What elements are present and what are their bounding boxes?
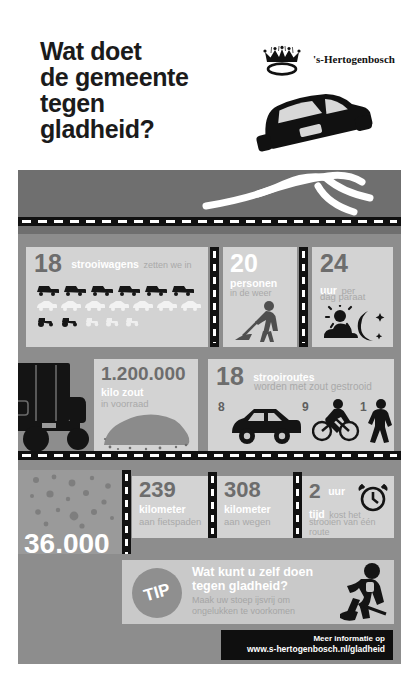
stat-strooiwagens: 18 strooiwagens zetten we in xyxy=(26,247,208,347)
strooiroutes-sub: worden met zout gestrooid xyxy=(254,381,372,392)
crown-icon xyxy=(254,44,310,78)
car-icon xyxy=(230,403,302,445)
fleet-icon-grid xyxy=(36,283,204,330)
divider-dashes-2 xyxy=(299,247,308,347)
city-logo: 's-Hertogenbosch xyxy=(254,44,394,80)
person-shoveling-icon xyxy=(334,562,392,622)
pedestrian-icon xyxy=(368,399,394,443)
truck-icon xyxy=(63,283,87,296)
tijd-route-label: uur xyxy=(328,485,345,497)
strooiwagens-label: strooiwagens xyxy=(71,258,139,270)
wegen-sub: aan wegen xyxy=(224,517,270,527)
tilted-car-icon xyxy=(246,80,374,166)
uur-paraat-sub: dag paraat xyxy=(320,292,365,302)
car-icon xyxy=(180,299,201,311)
tip-sub-line-2: ongelukken te voorkomen xyxy=(192,606,342,617)
stats-band-fleet: 18 strooiwagens zetten we in xyxy=(18,243,401,351)
road-dashes-mid xyxy=(18,451,401,460)
uur-paraat-number: 24 xyxy=(320,251,348,276)
personen-number: 20 xyxy=(230,251,258,276)
fleet-row-trucks xyxy=(36,283,204,296)
fleet-row-tractors xyxy=(36,314,204,327)
tip-panel: TIP Wat kunt u zelf doen tegen gladheid?… xyxy=(122,560,394,624)
fleet-row-cars xyxy=(36,299,204,311)
stat-wegen: 308 kilometer aan wegen xyxy=(217,476,293,538)
tip-badge-label: TIP xyxy=(126,562,188,624)
stats-band-kilometers: 36.000 kilo zout wordt er gemiddeld gest… xyxy=(18,470,401,566)
page-title: Wat doet de gemeente tegen gladheid? xyxy=(40,38,250,142)
poster-sheet: Wat doet de gemeente tegen gladheid? xyxy=(18,18,401,664)
tip-badge: TIP xyxy=(132,568,182,618)
truck-icon xyxy=(36,283,60,296)
tractor-icon xyxy=(60,314,81,327)
tractor-icon xyxy=(104,314,121,327)
poster-header: Wat doet de gemeente tegen gladheid? xyxy=(18,18,401,170)
divider-dashes-1 xyxy=(210,247,219,347)
truck-icon xyxy=(144,283,168,296)
routes-bike-count: 9 xyxy=(302,401,309,413)
sun-cloud-moon-icon xyxy=(320,305,386,345)
stat-strooiroutes: 18 strooiroutes worden met zout gestrooi… xyxy=(208,359,394,451)
routes-pedestrian-count: 1 xyxy=(360,401,367,413)
title-line-4: gladheid? xyxy=(40,116,250,142)
wegen-number: 308 xyxy=(224,479,261,501)
bicycle-icon xyxy=(312,399,360,443)
car-icon xyxy=(108,299,129,311)
tractor-icon xyxy=(84,314,101,327)
tijd-route-sub: strooien van één route xyxy=(309,518,394,538)
tijd-route-number: 2 xyxy=(309,479,321,502)
fietspaden-label: kilometer xyxy=(139,504,186,515)
title-line-2: de gemeente xyxy=(40,64,250,90)
routes-car-count: 8 xyxy=(218,401,225,413)
kilo-voorraad-number: 1.200.000 xyxy=(101,364,186,383)
more-info-label: Meer informatie op xyxy=(221,633,385,644)
poster-footer: Meer informatie op www.s-hertogenbosch.n… xyxy=(18,626,401,664)
road-band xyxy=(18,170,401,234)
strooiroutes-number: 18 xyxy=(216,362,244,390)
salt-grains-icon xyxy=(22,472,120,530)
tip-band: TIP Wat kunt u zelf doen tegen gladheid?… xyxy=(18,554,401,626)
stats-band-salt-routes: 1.200.000 kilo zout in voorraad 18 stroo… xyxy=(18,351,401,461)
large-truck-icon xyxy=(18,357,96,455)
title-line-3: tegen xyxy=(40,90,250,116)
skid-marks-icon xyxy=(198,158,398,218)
truck-icon xyxy=(90,283,114,296)
personen-sub: in de weer xyxy=(230,289,272,299)
title-line-1: Wat doet xyxy=(40,38,250,64)
divider-dashes-5 xyxy=(293,472,302,538)
worker-shovel-icon xyxy=(233,300,289,344)
tractor-icon xyxy=(124,314,141,327)
salt-pile-icon xyxy=(98,397,196,451)
alarm-clock-icon xyxy=(356,480,390,514)
stat-fietspaden: 239 kilometer aan fietspaden xyxy=(132,476,208,538)
infographic-poster: Wat doet de gemeente tegen gladheid? xyxy=(0,0,419,682)
car-icon xyxy=(132,299,153,311)
tip-heading-line-1: Wat kunt u zelf doen xyxy=(192,566,342,580)
car-icon xyxy=(36,299,57,311)
truck-icon xyxy=(117,283,141,296)
tractor-icon xyxy=(36,314,57,327)
strooiwagens-number: 18 xyxy=(34,249,62,277)
tip-subtext: Maak uw stoep ijsvrij om ongelukken te v… xyxy=(192,595,342,617)
car-icon xyxy=(84,299,105,311)
website-url[interactable]: www.s-hertogenbosch.nl/gladheid xyxy=(221,644,385,655)
stat-kilo-voorraad: 1.200.000 kilo zout in voorraad xyxy=(94,359,198,451)
car-icon xyxy=(60,299,81,311)
wegen-label: kilometer xyxy=(224,504,271,515)
more-info-box[interactable]: Meer informatie op www.s-hertogenbosch.n… xyxy=(221,630,393,660)
divider-dashes-4 xyxy=(208,472,217,538)
road-dashes-top xyxy=(18,217,401,226)
stat-tijd-route: 2 uur tijd kost het strooien van één rou… xyxy=(302,476,394,538)
stat-uur-paraat: 24 uur per dag paraat xyxy=(312,247,393,347)
fietspaden-sub: aan fietspaden xyxy=(139,517,201,527)
tip-heading: Wat kunt u zelf doen tegen gladheid? xyxy=(192,566,342,593)
tip-heading-line-2: tegen gladheid? xyxy=(192,580,342,594)
tip-sub-line-1: Maak uw stoep ijsvrij om xyxy=(192,595,342,606)
strooiwagens-suffix: zetten we in xyxy=(143,260,191,270)
fietspaden-number: 239 xyxy=(139,479,176,501)
stat-personen: 20 personen in de weer xyxy=(223,247,297,347)
city-name: 's-Hertogenbosch xyxy=(313,53,395,65)
truck-icon xyxy=(171,283,195,296)
car-icon xyxy=(156,299,177,311)
